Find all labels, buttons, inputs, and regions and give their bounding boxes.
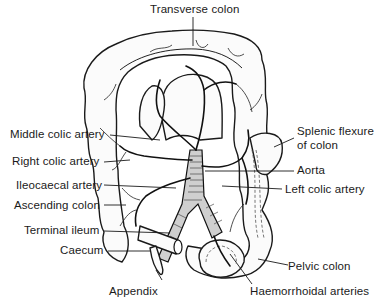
label-left-colic-artery: Left colic artery	[285, 183, 365, 196]
pelvic-colon	[199, 240, 244, 277]
label-splenic-flexure-line1: Splenic flexure	[297, 125, 374, 138]
mesentery-left	[140, 86, 165, 140]
label-ileocaecal-artery: Ileocaecal artery	[16, 179, 102, 192]
label-middle-colic-artery: Middle colic artery	[10, 128, 105, 141]
label-right-colic-artery: Right colic artery	[12, 155, 99, 168]
label-ascending-colon: Ascending colon	[14, 199, 100, 212]
label-splenic-flexure-line2: of colon	[297, 139, 338, 152]
label-caecum: Caecum	[60, 244, 103, 257]
label-terminal-ileum: Terminal ileum	[24, 224, 100, 237]
label-transverse-colon: Transverse colon	[150, 3, 239, 16]
right-colic-artery	[120, 146, 192, 160]
label-pelvic-colon: Pelvic colon	[288, 260, 351, 273]
label-appendix: Appendix	[109, 285, 158, 298]
colon-blood-supply-diagram: Transverse colon Middle colic artery Rig…	[0, 0, 388, 307]
label-aorta: Aorta	[297, 164, 325, 177]
label-haemorrhoidal-arteries: Haemorrhoidal arteries	[250, 285, 369, 298]
